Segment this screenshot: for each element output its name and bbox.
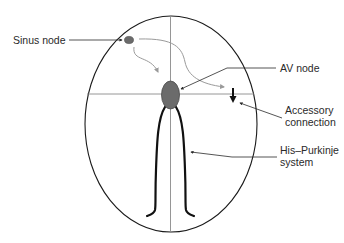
sinus-node[interactable] <box>125 36 134 43</box>
his-purkinje-label-line2: system <box>280 156 313 168</box>
his-purkinje-label-line1: His–Purkinje <box>280 144 339 156</box>
av-node-label: AV node <box>280 62 320 74</box>
av-node-leader <box>181 68 276 89</box>
heart-outline <box>85 16 257 232</box>
accessory-connection-label-line1: Accessory <box>285 104 333 116</box>
his-purkinje-left-fiber <box>147 107 165 216</box>
accessory-connection-label-line2: connection <box>285 116 336 128</box>
accessory-connection-arrow-icon <box>230 88 237 103</box>
impulse-arrow-to-accessory <box>139 39 224 87</box>
accessory-connection-leader <box>240 103 282 118</box>
his-purkinje-right-fiber <box>176 107 194 216</box>
av-node[interactable] <box>162 81 180 109</box>
sinus-node-label: Sinus node <box>13 34 66 46</box>
his-purkinje-leader <box>191 152 277 157</box>
impulse-arrow-to-av-node <box>134 47 158 72</box>
